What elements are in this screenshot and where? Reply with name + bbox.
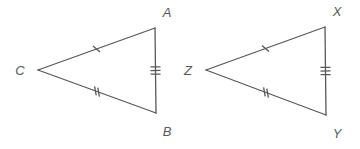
side-zx-ticks: [262, 46, 269, 52]
side-zx: [206, 27, 325, 70]
tick-mark: [264, 87, 266, 96]
vertex-label-b: B: [163, 124, 172, 139]
vertex-label-z: Z: [183, 63, 193, 78]
tick-mark: [267, 89, 269, 98]
vertex-label-a: A: [162, 5, 172, 20]
side-zy: [206, 70, 326, 115]
vertex-label-y: Y: [333, 126, 343, 141]
side-xy: [320, 27, 330, 115]
geometry-figure: ABCXYZ: [0, 0, 360, 149]
side-ab: [150, 28, 160, 113]
side-ca: [38, 28, 155, 70]
side-cb-line: [38, 70, 156, 113]
tick-mark: [262, 46, 269, 52]
vertex-label-x: X: [332, 4, 343, 19]
triangle-xyz: XYZ: [183, 4, 343, 141]
tick-mark: [98, 88, 100, 97]
side-cb: [38, 70, 156, 113]
side-zy-line: [206, 70, 326, 115]
geometry-canvas: ABCXYZ: [0, 0, 360, 149]
vertex-label-c: C: [15, 63, 25, 78]
side-ca-ticks: [93, 46, 100, 52]
tick-mark: [93, 46, 100, 52]
triangle-abc: ABC: [15, 5, 171, 139]
tick-mark: [95, 86, 97, 95]
